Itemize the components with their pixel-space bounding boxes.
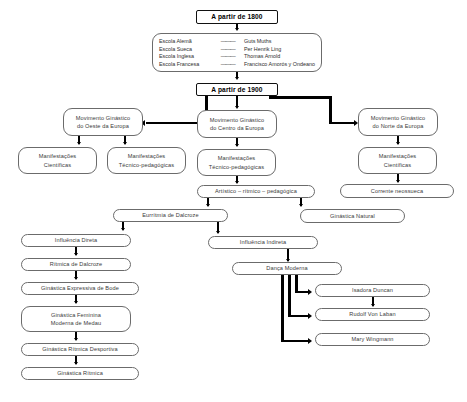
node-influencia-direta-label: Influência Direta — [55, 236, 97, 244]
arrowhead-isadora-to-laban — [371, 304, 375, 307]
node-a-partir-de-1900-label: A partir de 1900 — [211, 85, 262, 95]
node-a-partir-de-1800: A partir de 1800 — [196, 10, 278, 24]
arrowhead-direta-to-ritmica — [74, 253, 78, 256]
node-medau-line1: Ginástica Feminina — [25, 311, 127, 319]
node-movimento-norte-line1: Movimento Ginástico — [362, 114, 434, 122]
node-corrente-label: Corrente neossueca — [371, 187, 423, 195]
escola-dash: ——— — [215, 61, 241, 69]
arrowhead-danca-to-wingmann — [308, 338, 312, 344]
node-artistico-ritmico-pedagogica: Artístico – rítmico – pedagógica — [197, 185, 315, 198]
escola-person: Thomas Arnold — [241, 53, 315, 61]
arrowhead-grd-to-ritmica — [74, 362, 78, 365]
arrowhead-oeste-to-tecnico — [123, 142, 127, 145]
table-row: Escola Sueca ——— Per Henrik Ling — [159, 46, 315, 54]
connector-1900-right-horizontal-top — [269, 96, 331, 99]
node-euritmia-dalcroze: Eurrítmia de Dalcroze — [113, 209, 228, 222]
arrowhead-euritmia-to-indireta — [216, 231, 220, 234]
arrowhead-danca-to-laban — [308, 313, 312, 319]
node-artistico-label: Artístico – rítmico – pedagógica — [215, 187, 297, 195]
arrowhead-artistico-to-euritmia — [206, 204, 210, 207]
arrowhead-ritmica-to-bode — [74, 277, 78, 280]
node-ritmica-dalcroze: Rítmica de Dalcroze — [21, 258, 131, 271]
connector-danca-to-isadora-vertical — [295, 275, 298, 292]
node-manifestacoes-cientificas-norte: Manifestações Científicas — [358, 147, 437, 174]
flowchart-diagram: A partir de 1800 Escola Alemã ——— Guts M… — [0, 0, 467, 402]
node-movimento-oeste-line2: do Oeste da Europa — [67, 122, 139, 130]
node-ginastica-ritmica-desportiva: Ginástica Rítmica Desportiva — [21, 343, 139, 356]
node-rudolf-von-laban: Rudolf Von Laban — [315, 308, 430, 321]
node-manif-cient-oeste-line2: Científicas — [22, 161, 93, 169]
node-ginastica-feminina-medau: Ginástica Feminina Moderna de Medau — [21, 306, 131, 332]
escola-person: Guts Muths — [241, 38, 315, 46]
node-manif-cient-oeste-line1: Manifestações — [22, 152, 93, 160]
node-movimento-oeste: Movimento Ginástico do Oeste da Europa — [63, 108, 143, 136]
arrowhead-norte-to-cientificas — [396, 142, 400, 145]
arrowhead-centro-to-tecnico — [235, 144, 239, 147]
arrowhead-oeste-to-cientificas — [77, 142, 81, 145]
node-movimento-centro-line2: do Centro da Europa — [201, 124, 273, 132]
node-ginastica-natural: Ginástica Natural — [300, 209, 405, 223]
escola-dash: ——— — [215, 53, 241, 61]
node-a-partir-de-1900: A partir de 1900 — [196, 83, 278, 96]
table-row: Escola Alemã ——— Guts Muths — [159, 38, 315, 46]
node-danca-moderna-label: Dança Moderna — [266, 264, 307, 272]
escola-name: Escola Inglesa — [159, 53, 215, 61]
arrowhead-1900-to-centro — [235, 106, 239, 109]
connector-danca-to-laban-horizontal — [288, 315, 309, 318]
node-manif-tecno-oeste-line2: Técnico-pedagógicas — [111, 161, 182, 169]
node-a-partir-de-1800-label: A partir de 1800 — [211, 12, 262, 22]
node-ritmica-dalcroze-label: Rítmica de Dalcroze — [50, 260, 103, 268]
node-movimento-centro-line1: Movimento Ginástico — [201, 116, 273, 124]
arrowhead-danca-to-isadora — [308, 289, 312, 295]
table-row: Escola Francesa ——— Francisco Amorós y O… — [159, 61, 315, 69]
node-movimento-norte-line2: do Norte da Europa — [362, 122, 434, 130]
node-corrente-neossueca: Corrente neossueca — [340, 184, 454, 198]
arrowhead-1800-to-escolas — [235, 28, 239, 31]
node-movimento-oeste-line1: Movimento Ginástico — [67, 114, 139, 122]
connector-1900-right-horizontal-bottom — [329, 122, 355, 125]
node-ginastica-natural-label: Ginástica Natural — [330, 212, 375, 220]
escola-name: Escola Alemã — [159, 38, 215, 46]
node-influencia-indireta: Influência Indireta — [208, 236, 318, 249]
node-danca-moderna: Dança Moderna — [232, 262, 342, 275]
connector-danca-to-wingmann-horizontal — [281, 340, 309, 343]
connector-danca-to-laban-vertical — [288, 275, 291, 316]
node-movimento-norte: Movimento Ginástico do Norte da Europa — [358, 108, 438, 136]
escolas-table: Escola Alemã ——— Guts Muths Escola Sueca… — [159, 38, 315, 68]
node-ginastica-expressiva-bode: Ginástica Expressiva de Bode — [21, 282, 139, 295]
node-laban-label: Rudolf Von Laban — [349, 310, 395, 318]
table-row: Escola Inglesa ——— Thomas Arnold — [159, 53, 315, 61]
node-wingmann-label: Mary Wingmann — [351, 335, 393, 343]
node-manif-tecno-centro-line1: Manifestações — [201, 154, 272, 162]
escola-person: Per Henrik Ling — [241, 46, 315, 54]
arrowhead-manif-norte-to-corrente — [396, 180, 400, 183]
connector-danca-to-isadora-horizontal — [295, 291, 309, 294]
node-manif-tecno-centro-line2: Técnico-pedagógicas — [201, 163, 272, 171]
node-isadora-label: Isadora Duncan — [352, 286, 393, 294]
node-medau-line2: Moderna de Medau — [25, 319, 127, 327]
node-manifestacoes-cientificas-oeste: Manifestações Científicas — [18, 147, 97, 174]
arrowhead-medau-to-grd — [74, 338, 78, 341]
node-manifestacoes-tecnico-oeste: Manifestações Técnico-pedagógicas — [107, 147, 186, 174]
node-influencia-indireta-label: Influência Indireta — [240, 238, 286, 246]
node-influencia-direta: Influência Direta — [21, 234, 131, 247]
escola-dash: ——— — [215, 38, 241, 46]
arrowhead-artistico-to-natural — [299, 204, 303, 207]
node-euritmia-label: Eurrítmia de Dalcroze — [142, 211, 198, 219]
escola-name: Escola Sueca — [159, 46, 215, 54]
escola-name: Escola Francesa — [159, 61, 215, 69]
node-manif-cient-norte-line1: Manifestações — [362, 152, 433, 160]
node-manif-tecno-oeste-line1: Manifestações — [111, 152, 182, 160]
node-grd-label: Ginástica Rítmica Desportiva — [42, 345, 117, 353]
node-mary-wingmann: Mary Wingmann — [315, 333, 430, 346]
escola-person: Francisco Amorós y Ondeano — [241, 61, 315, 69]
node-escolas-table: Escola Alemã ——— Guts Muths Escola Sueca… — [152, 33, 322, 72]
arrowhead-escolas-to-1900 — [235, 77, 239, 80]
node-ginastica-ritmica-label: Ginástica Rítmica — [57, 369, 103, 377]
node-movimento-centro: Movimento Ginástico do Centro da Europa — [197, 110, 277, 138]
node-isadora-duncan: Isadora Duncan — [315, 284, 430, 297]
connector-danca-to-wingmann-vertical — [281, 275, 284, 341]
node-ginastica-ritmica: Ginástica Rítmica — [21, 367, 139, 380]
connector-1900-right-vertical — [329, 96, 332, 122]
arrowhead-euritmia-to-direta — [121, 228, 125, 231]
